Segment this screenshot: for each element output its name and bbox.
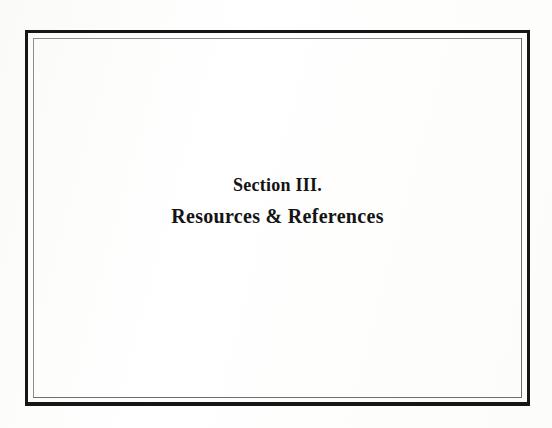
scanned-page: Section III. Resources & References (0, 0, 552, 428)
section-number-heading: Section III. (34, 170, 521, 200)
section-title-heading: Resources & References (34, 200, 521, 232)
page-content-area: Section III. Resources & References (34, 39, 521, 397)
section-title-block: Section III. Resources & References (34, 170, 521, 232)
